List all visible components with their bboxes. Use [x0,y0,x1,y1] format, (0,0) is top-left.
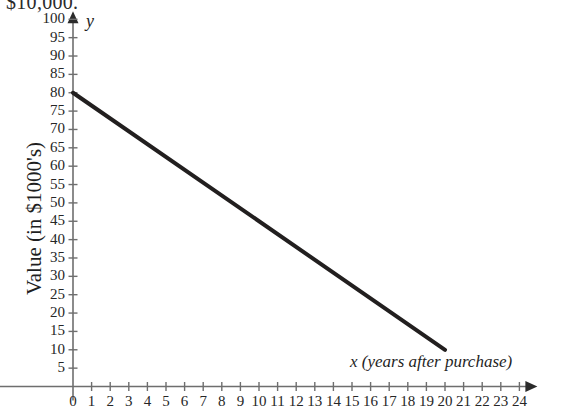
y-tick-label: 65 [31,139,65,156]
x-axis-arrowhead [525,381,537,392]
y-tick-label: 40 [31,231,65,248]
y-tick-label: 70 [31,120,65,137]
y-tick-label: 80 [31,84,65,101]
y-tick-label: 20 [31,304,65,321]
chart-figure: $10,000. Value (in $1000's) x (years aft… [0,0,566,412]
y-tick-label: 5 [31,359,65,376]
y-axis-variable-label: y [86,11,94,32]
plot-canvas [0,0,566,412]
x-axis-title: x (years after purchase) [350,352,512,372]
y-tick-label: 30 [31,267,65,284]
y-tick-label: 25 [31,286,65,303]
y-tick-label: 85 [31,65,65,82]
y-tick-label: 100 [31,10,65,27]
y-tick-label: 90 [31,47,65,64]
y-tick-label: 15 [31,322,65,339]
y-tick-label: 75 [31,102,65,119]
y-tick-label: 35 [31,249,65,266]
y-tick-label: 55 [31,176,65,193]
y-tick-label: 45 [31,212,65,229]
y-tick-label: 10 [31,341,65,358]
axis-ticks [0,19,519,391]
x-tick-label: 24 [508,393,530,410]
data-series [73,93,445,350]
y-tick-label: 95 [31,29,65,46]
y-tick-label: 60 [31,157,65,174]
axes [0,11,537,400]
series-line [73,93,445,350]
y-tick-label: 50 [31,194,65,211]
